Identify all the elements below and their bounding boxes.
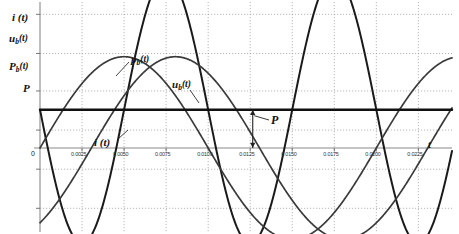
annotation-i-text: i (t) [94,136,110,148]
annotation-ub-curve: ub(t) [172,79,191,92]
power-waveform-chart [0,0,459,234]
x-tick-label-1: 0.0050 [113,151,128,157]
y-axis-label-ub: ub(t) [9,33,28,46]
axes [34,2,452,232]
y-axis-label-ub-text: ub(t) [9,32,28,44]
x-tick-label-4: 0.0125 [239,151,254,157]
annotation-P-arrow: P [271,113,278,128]
ub-leader [190,90,199,103]
p-label-leader [254,116,269,120]
y-axis-label-P-text: P [23,82,30,94]
y-axis-label-pb-text: Pb(t) [9,60,28,72]
annotation-P-text: P [271,113,278,127]
y-axis-label-P: P [23,83,30,94]
x-tick-label-2: 0.0075 [155,151,170,157]
origin-label: 0 [31,150,35,157]
x-tick-label-5: 0.0150 [281,151,296,157]
x-tick-label-0: 0.0025 [71,151,86,157]
annotation-ub-text: ub(t) [172,78,191,90]
p-arrow-head-bottom [250,143,255,148]
annotation-i-curve: i (t) [94,137,110,148]
curve-group [40,0,452,234]
pb-leader [116,62,129,76]
x-tick-label-7: 0.0200 [365,151,380,157]
x-tick-label-3: 0.0100 [197,151,212,157]
x-axis-label-t: t [428,139,431,150]
x-tick-label-8: 0.0225 [407,151,422,157]
grid-lines [40,2,452,232]
y-axis-label-pb: Pb(t) [9,61,28,74]
x-axis-label-t-text: t [428,139,431,150]
curve-instantaneous-power [40,0,452,234]
annotation-pb-text: pb(t) [131,53,149,65]
annotation-pb-curve: pb(t) [131,54,149,67]
y-axis-label-i-text: i (t) [12,11,28,23]
x-tick-label-6: 0.0175 [323,151,338,157]
p-measurement-arrow [250,110,269,148]
y-axis-label-i: i (t) [12,12,28,23]
